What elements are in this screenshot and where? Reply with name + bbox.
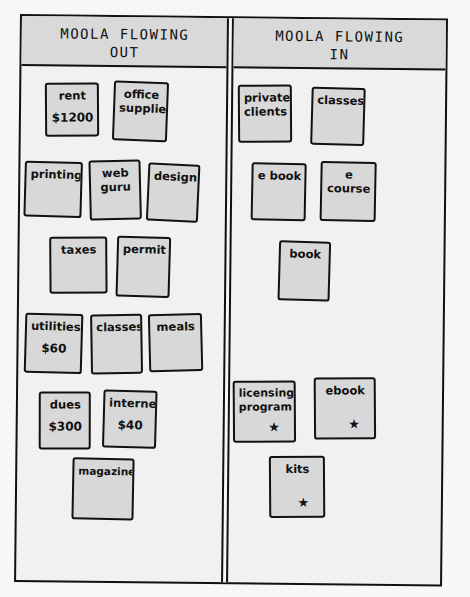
note-permit: permit [116,236,172,298]
moola-in-title-line1: MOOLA FLOWING [275,28,404,45]
note-book: book [277,240,331,301]
moola-in-column: MOOLA FLOWING IN private clients classes… [228,18,446,584]
star-icon: ★ [348,417,360,431]
note-e-book: e book [251,162,307,221]
note-taxes: taxes [49,236,107,293]
moola-flow-board: MOOLA FLOWING OUT rent $1200 office supp… [14,14,448,586]
note-magazines: magazines [71,457,134,520]
note-classes-out: classes [90,314,143,375]
note-office-supplies: office supplies [112,80,169,142]
note-dues: dues $300 [39,391,91,449]
moola-in-header: MOOLA FLOWING IN [233,18,446,70]
note-design: design [146,162,201,222]
note-internet: internet $40 [102,389,158,448]
moola-out-header: MOOLA FLOWING OUT [21,16,228,68]
star-icon: ★ [268,420,280,434]
star-icon: ★ [297,496,309,510]
note-ebook-in: ebook ★ [314,377,376,439]
note-e-course: e course [320,161,377,222]
moola-in-title-line2: IN [234,44,446,64]
note-web-guru: web guru [88,159,141,220]
moola-out-column: MOOLA FLOWING OUT rent $1200 office supp… [16,16,228,582]
moola-out-title-line1: MOOLA FLOWING [60,25,189,42]
note-private-clients: private clients [238,84,292,142]
note-licensing-program: licensing program ★ [233,380,296,442]
note-kits: kits ★ [269,456,325,518]
note-rent: rent $1200 [45,82,99,136]
note-utilities: utilities $60 [24,313,84,375]
note-printing: printing [23,161,83,219]
note-meals: meals [148,313,203,372]
note-classes-in: classes [310,87,366,146]
moola-out-title-line2: OUT [22,42,228,62]
